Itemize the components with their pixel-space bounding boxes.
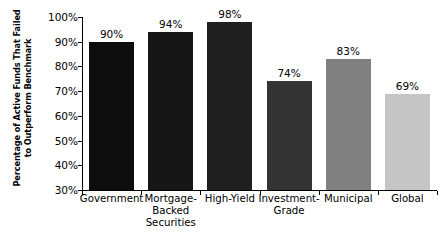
y-axis-tick-mark <box>78 42 82 43</box>
y-axis-tick-label: 100% <box>42 12 78 23</box>
bar-value-label: 74% <box>259 67 319 79</box>
bar-value-label: 90% <box>82 28 142 40</box>
y-axis-tick-mark <box>78 141 82 142</box>
x-axis-category-label-line: Grade <box>252 205 326 217</box>
x-axis-category-label: Global <box>370 193 444 205</box>
x-axis-category-labels: GovernmentMortgage-BackedSecuritiesHigh-… <box>82 193 437 241</box>
bar-value-label: 98% <box>200 8 260 20</box>
y-axis-tick-label: 60% <box>42 110 78 121</box>
bar-value-label: 94% <box>141 18 201 30</box>
bar[interactable] <box>326 59 371 190</box>
bar-chart: Percentage of Active Funds That Failed t… <box>0 0 444 241</box>
y-axis-tick-mark <box>78 91 82 92</box>
bar[interactable] <box>148 32 193 190</box>
y-axis-title-line-2: to Outperform Benchmark <box>23 9 34 186</box>
y-axis-tick-mark <box>78 66 82 67</box>
y-axis-tick-label: 30% <box>42 185 78 196</box>
y-axis-tick-mark <box>78 165 82 166</box>
plot-area: 90%94%98%74%83%69% <box>82 17 437 190</box>
y-axis-tick-label: 50% <box>42 135 78 146</box>
y-axis-tick-mark <box>78 116 82 117</box>
x-axis-category-label-line: Global <box>370 193 444 205</box>
bar[interactable] <box>385 94 430 190</box>
bar-value-label: 69% <box>377 80 437 92</box>
x-axis-category-label-line: Securities <box>134 217 208 229</box>
y-axis-tick-label: 70% <box>42 86 78 97</box>
y-axis-title-line-1: Percentage of Active Funds That Failed <box>12 9 23 186</box>
y-axis-tick-label: 90% <box>42 36 78 47</box>
y-axis-tick-label: 80% <box>42 61 78 72</box>
y-axis-tick-label: 40% <box>42 160 78 171</box>
bar[interactable] <box>89 42 134 190</box>
y-axis-title: Percentage of Active Funds That Failed t… <box>0 0 46 195</box>
bar[interactable] <box>267 81 312 190</box>
y-axis-tick-labels: 100%90%80%70%60%50%40%30% <box>42 10 78 196</box>
x-axis-category-label-line: Backed <box>134 205 208 217</box>
bar-value-label: 83% <box>318 45 378 57</box>
y-axis-line <box>82 17 83 191</box>
bar[interactable] <box>207 22 252 190</box>
y-axis-tick-mark <box>78 17 82 18</box>
